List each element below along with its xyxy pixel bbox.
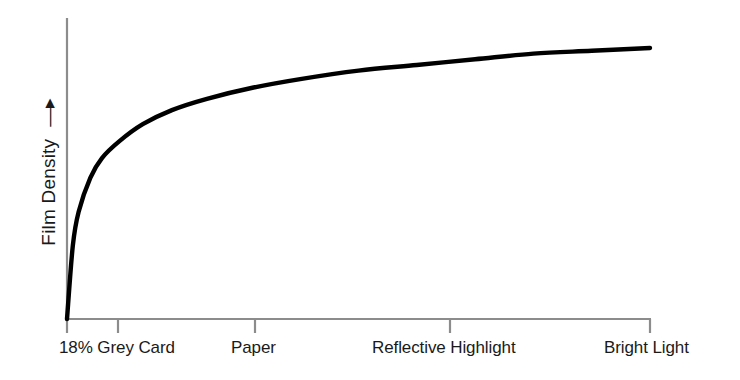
film-density-curve: [67, 48, 650, 319]
x-tick-label-bright-light: Bright Light: [604, 338, 689, 358]
x-tick-label-reflective-highlight: Reflective Highlight: [372, 338, 516, 358]
x-tick-label-grey-card: 18% Grey Card: [59, 338, 175, 358]
x-tick-label-paper: Paper: [231, 338, 276, 358]
plot-area: [0, 0, 740, 380]
film-density-chart: Film Density—▸ 18% Grey Card Paper Refle…: [0, 0, 740, 380]
